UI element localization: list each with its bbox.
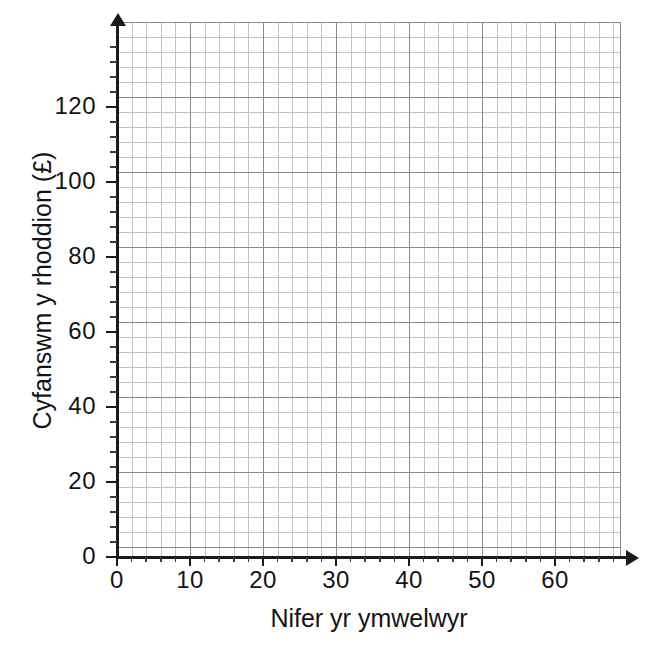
x-axis-minor-tick	[583, 557, 585, 562]
x-axis-minor-tick	[277, 557, 279, 562]
y-axis-minor-tick	[110, 436, 117, 438]
x-axis-tick-label: 20	[233, 566, 293, 594]
x-axis-tick	[335, 557, 338, 566]
x-axis-tick	[189, 557, 192, 566]
x-axis-minor-tick	[598, 557, 600, 562]
x-axis-minor-tick	[496, 557, 498, 562]
y-axis-tick	[106, 556, 117, 559]
x-axis-tick-label: 60	[525, 566, 585, 594]
x-axis-minor-tick	[510, 557, 512, 562]
y-axis-minor-tick	[110, 91, 117, 93]
y-axis-tick	[106, 106, 117, 109]
y-axis-minor-tick	[110, 451, 117, 453]
x-axis-arrow-icon	[626, 550, 639, 566]
y-axis-minor-tick	[110, 496, 117, 498]
x-axis-minor-tick	[175, 557, 177, 562]
x-axis-minor-tick	[306, 557, 308, 562]
x-axis-tick-label: 40	[379, 566, 439, 594]
x-axis-minor-tick	[204, 557, 206, 562]
y-axis-tick	[106, 331, 117, 334]
x-axis-minor-tick	[452, 557, 454, 562]
y-axis-minor-tick	[110, 76, 117, 78]
x-axis-minor-tick	[160, 557, 162, 562]
x-axis-tick	[408, 557, 411, 566]
x-axis-minor-tick	[364, 557, 366, 562]
x-axis-minor-tick	[613, 557, 615, 562]
graph-page: 0102030405060 020406080100120 Nifer yr y…	[0, 0, 647, 646]
y-axis-minor-tick	[110, 316, 117, 318]
y-axis-minor-tick	[110, 271, 117, 273]
x-axis-minor-tick	[248, 557, 250, 562]
y-axis-arrow-icon	[110, 13, 126, 26]
y-axis-minor-tick	[110, 526, 117, 528]
y-axis-minor-tick	[110, 136, 117, 138]
y-axis-minor-tick	[110, 196, 117, 198]
y-axis-minor-tick	[110, 46, 117, 48]
y-axis-tick	[106, 181, 117, 184]
y-axis-tick	[106, 256, 117, 259]
y-axis-minor-tick	[110, 61, 117, 63]
y-axis-minor-tick	[110, 391, 117, 393]
x-axis-tick-label: 50	[452, 566, 512, 594]
y-axis-minor-tick	[110, 286, 117, 288]
y-axis-minor-tick	[110, 361, 117, 363]
y-axis-minor-tick	[110, 466, 117, 468]
y-axis-minor-tick	[110, 121, 117, 123]
x-axis-minor-tick	[145, 557, 147, 562]
y-axis-minor-tick	[110, 346, 117, 348]
x-axis-minor-tick	[218, 557, 220, 562]
x-axis-minor-tick	[394, 557, 396, 562]
x-axis-tick	[262, 557, 265, 566]
x-axis-minor-tick	[467, 557, 469, 562]
x-axis-minor-tick	[291, 557, 293, 562]
x-axis-tick-label: 0	[87, 566, 147, 594]
x-axis-title: Nifer yr ymwelwyr	[117, 604, 621, 633]
x-axis-tick-label: 10	[160, 566, 220, 594]
x-axis-tick	[554, 557, 557, 566]
y-axis-minor-tick	[110, 151, 117, 153]
y-axis-minor-tick	[110, 166, 117, 168]
y-axis-minor-tick	[110, 241, 117, 243]
x-axis-minor-tick	[379, 557, 381, 562]
x-axis-minor-tick	[525, 557, 527, 562]
x-axis-minor-tick	[131, 557, 133, 562]
y-axis-tick	[106, 481, 117, 484]
x-axis-minor-tick	[569, 557, 571, 562]
x-axis-tick	[116, 557, 119, 566]
y-axis-minor-tick	[110, 211, 117, 213]
x-axis-minor-tick	[437, 557, 439, 562]
y-axis-minor-tick	[110, 421, 117, 423]
y-axis-minor-tick	[110, 376, 117, 378]
x-axis-minor-tick	[321, 557, 323, 562]
y-axis-minor-tick	[110, 511, 117, 513]
x-axis-minor-tick	[540, 557, 542, 562]
y-axis-minor-tick	[110, 226, 117, 228]
x-axis-minor-tick	[233, 557, 235, 562]
x-axis-tick	[481, 557, 484, 566]
x-axis-minor-tick	[423, 557, 425, 562]
y-axis-minor-tick	[110, 541, 117, 543]
y-axis-title: Cyfanswm y rhoddion (£)	[28, 21, 57, 561]
plot-grid-area	[117, 22, 621, 557]
x-axis-tick-label: 30	[306, 566, 366, 594]
x-axis-minor-tick	[350, 557, 352, 562]
y-axis-tick	[106, 406, 117, 409]
y-axis-minor-tick	[110, 301, 117, 303]
